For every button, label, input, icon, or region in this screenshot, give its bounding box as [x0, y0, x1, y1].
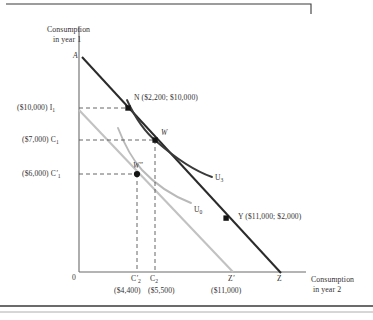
point-marker-n — [125, 105, 130, 110]
x-tick-c2-prime-money: ($4,400) — [114, 286, 141, 295]
x-tick-c2-money: ($5,500) — [148, 286, 175, 295]
y-tick-c1-prime-money: ($6,000) — [22, 169, 49, 178]
point-label-n-annotation: ($2,200; $10,000) — [142, 93, 198, 102]
budget-line-light — [79, 110, 233, 272]
diagram-canvas — [0, 0, 373, 320]
point-label-n-symbol: N — [134, 93, 140, 102]
budget-line-dark — [82, 57, 281, 273]
curve-label-u0-sub: 0 — [200, 209, 203, 215]
x-tick-z-prime: Z′ — [228, 274, 235, 283]
curve-label-u0-symbol: U — [194, 205, 200, 214]
x-axis-title-line1: Consumption — [311, 275, 354, 285]
x-tick-c2-prime: C′2 — [131, 274, 141, 284]
point-label-a: A — [73, 51, 78, 60]
point-label-y: Y ($11,000; $2,000) — [238, 212, 301, 221]
y-axis-title-line1: Consumption — [47, 25, 90, 35]
point-label-w-double-prime: W″ — [133, 161, 143, 170]
point-label-n: N ($2,200; $10,000) — [134, 93, 198, 102]
y-tick-c1: ($7,000) C1 — [22, 135, 59, 145]
x-tick-c2-prime-sub: 2 — [138, 278, 141, 284]
x-tick-c2: C2 — [150, 274, 158, 284]
point-marker-y — [223, 215, 228, 220]
curve-label-u3: U3 — [215, 173, 224, 183]
y-tick-i1-sub: 1 — [52, 107, 55, 113]
y-tick-c1-money: ($7,000) — [22, 135, 49, 144]
x-tick-c2-sub: 2 — [155, 278, 158, 284]
point-marker-w — [152, 137, 157, 142]
origin-label: 0 — [72, 273, 76, 282]
x-axis-title-line2: in year 2 — [313, 285, 341, 295]
figure-container: Consumption in year 1 Consumption in yea… — [0, 0, 373, 320]
y-axis-title-line2: in year 1 — [53, 35, 81, 45]
point-label-y-symbol: Y — [238, 212, 243, 221]
y-tick-c1-sub: 1 — [56, 139, 59, 145]
point-marker-w-double-prime — [134, 171, 140, 177]
curve-label-u3-sub: 3 — [221, 177, 224, 183]
curve-label-u3-symbol: U — [215, 173, 221, 182]
top-frame-rule — [6, 4, 311, 14]
point-label-w: W — [161, 128, 167, 137]
curve-label-u0: U0 — [194, 205, 203, 215]
x-tick-z: Z — [277, 274, 282, 283]
y-tick-i1-money: ($10,000) — [17, 103, 48, 112]
x-tick-z-prime-mark: ′ — [233, 274, 235, 283]
y-tick-c1-prime-sub: 1 — [58, 173, 61, 179]
y-tick-c1-prime: ($6,000) C′1 — [22, 169, 61, 179]
x-tick-z-prime-money: ($11,000) — [211, 286, 241, 295]
x-tick-z-symbol: Z — [277, 274, 282, 283]
y-tick-i1: ($10,000) I1 — [17, 103, 55, 113]
point-label-y-annotation: ($11,000; $2,000) — [245, 212, 301, 221]
